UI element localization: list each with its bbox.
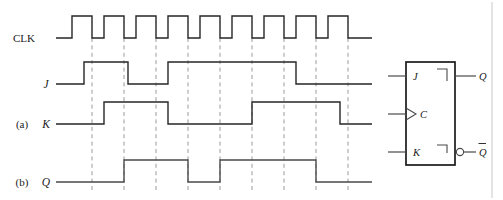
figure-canvas: CLK J K (a) Q (b) J C bbox=[0, 0, 503, 200]
waveform-label-clk: CLK bbox=[13, 32, 35, 44]
waveform-label-q: Q bbox=[42, 176, 51, 188]
qbar-internal-corner-icon bbox=[437, 145, 447, 153]
k-trace bbox=[56, 102, 372, 124]
waveform-q: Q (b) bbox=[16, 160, 372, 189]
jk-flip-flop-symbol: J C K Q Q bbox=[388, 62, 487, 165]
waveform-label-k: K bbox=[41, 118, 51, 130]
waveform-k: K (a) bbox=[16, 102, 372, 131]
qbar-pin-label: Q bbox=[479, 147, 487, 158]
q-pin-label: Q bbox=[479, 71, 487, 82]
part-label-a: (a) bbox=[16, 118, 29, 131]
dynamic-indicator-icon bbox=[406, 108, 416, 120]
waveform-clk: CLK bbox=[13, 16, 372, 44]
j-pin-label: J bbox=[413, 71, 419, 82]
inversion-bubble-icon bbox=[456, 148, 463, 155]
k-pin-label: K bbox=[412, 147, 421, 158]
q-trace bbox=[56, 160, 372, 182]
q-internal-corner-icon bbox=[437, 69, 447, 81]
waveform-label-j: J bbox=[43, 78, 49, 90]
clk-trace bbox=[56, 16, 372, 38]
c-pin-label: C bbox=[420, 109, 428, 120]
j-trace bbox=[56, 62, 372, 84]
waveform-j: J bbox=[43, 62, 372, 90]
part-label-b: (b) bbox=[16, 176, 29, 189]
timing-diagram-figure: CLK J K (a) Q (b) J C bbox=[0, 0, 503, 200]
